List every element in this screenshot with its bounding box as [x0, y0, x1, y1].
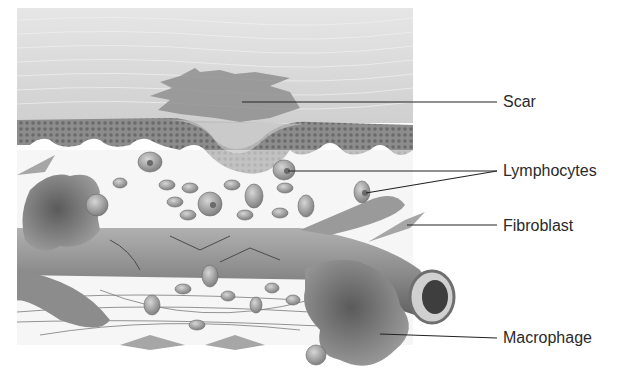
label-macrophage: Macrophage [503, 329, 592, 347]
label-lymphocytes: Lymphocytes [503, 162, 597, 180]
label-fibroblast: Fibroblast [503, 217, 573, 235]
label-scar: Scar [503, 93, 536, 111]
tissue-repair-diagram: Scar Lymphocytes Fibroblast Macrophage [0, 0, 641, 387]
